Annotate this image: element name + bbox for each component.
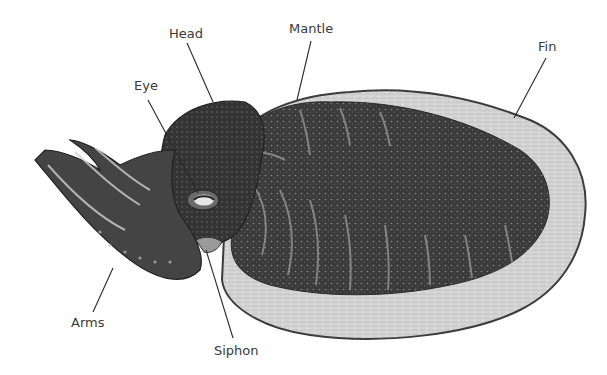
eye (187, 190, 219, 210)
cuttlefish-diagram: Head Mantle Fin Eye Arms Siphon (0, 0, 607, 375)
fin-leader-line (514, 58, 546, 118)
head-leader-line (187, 43, 213, 102)
label-siphon: Siphon (214, 343, 259, 358)
label-head: Head (169, 26, 203, 41)
label-eye: Eye (134, 78, 158, 93)
label-arms: Arms (71, 315, 105, 330)
label-mantle: Mantle (289, 21, 333, 36)
label-fin: Fin (538, 39, 556, 54)
arms-leader-line (93, 268, 113, 312)
mantle-leader-line (297, 41, 311, 100)
